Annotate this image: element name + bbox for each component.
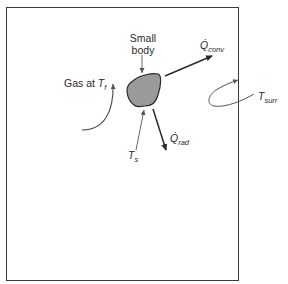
- q-rad-symbol: Q̇: [170, 132, 178, 144]
- gas-temperature-label: Gas at Tf: [64, 78, 106, 89]
- small-body-label-line2: body: [128, 45, 158, 56]
- surface-temperature-label: Ts: [128, 150, 138, 161]
- q-rad-subscript: rad: [178, 138, 189, 147]
- q-conv-arrow: [165, 56, 212, 76]
- q-conv-subscript: conv: [208, 45, 224, 54]
- q-rad-label: Q̇rad: [170, 133, 189, 144]
- q-conv-label: Q̇conv: [200, 40, 224, 51]
- gas-label-text: Gas at: [64, 77, 98, 89]
- small-body-shape: [127, 74, 161, 107]
- q-rad-arrow: [153, 109, 166, 150]
- surroundings-loop-arrow: [209, 80, 254, 106]
- surroundings-temp-subscript: surr: [264, 96, 277, 105]
- q-conv-symbol: Q̇: [200, 39, 208, 51]
- small-body-label-line1: Small: [128, 33, 158, 44]
- diagram-canvas: Small body Gas at Tf Q̇conv Q̇rad Ts Tsu…: [0, 0, 288, 284]
- surface-temp-subscript: s: [134, 155, 138, 164]
- surroundings-temperature-label: Tsurr: [258, 91, 277, 102]
- gas-flow-arrow: [82, 84, 113, 130]
- surface-temp-pointer-arrow: [136, 110, 144, 150]
- small-body-label: Small body: [128, 33, 158, 55]
